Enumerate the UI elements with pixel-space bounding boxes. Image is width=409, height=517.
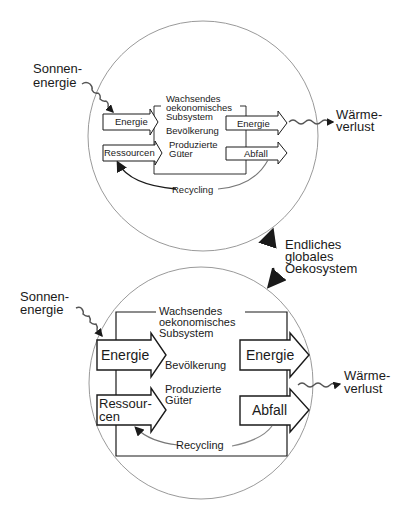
bottom-resources-input-arrow: Ressour- cen: [97, 388, 166, 432]
bottom-population-label: Bevölkerung: [165, 359, 226, 371]
top-heat-wave-icon: [289, 120, 333, 124]
ecosystem-diagram: Sonnen- energie Energie Ressourcen Wachs…: [0, 0, 409, 517]
bottom-recycling-arrow: [136, 428, 178, 445]
bottom-heat-loss-label: Wärme- verlust: [344, 368, 394, 396]
top-heat-loss-label: Wärme- verlust: [336, 107, 386, 134]
top-ecosystem-circle: [88, 21, 318, 251]
svg-text:Ressourcen: Ressourcen: [104, 147, 155, 158]
top-recycling-label: Recycling: [172, 184, 213, 195]
bottom-heat-wave-icon: [298, 383, 340, 387]
svg-text:Abfall: Abfall: [244, 148, 268, 159]
bottom-energy-input-arrow: Energie: [97, 333, 166, 377]
top-produced-goods-label: Produzierte Güter: [169, 139, 220, 159]
top-recycling-arrow: [118, 163, 176, 189]
svg-text:Abfall: Abfall: [252, 402, 287, 418]
top-energy-output-arrow: Energie: [226, 111, 287, 135]
top-resources-input-arrow: Ressourcen: [103, 141, 162, 165]
top-waste-output-arrow: Abfall: [226, 142, 287, 164]
ecosystem-connector: Endliches globales Oekosystem: [270, 232, 357, 285]
bottom-produced-goods-label: Produzierte Güter: [165, 383, 224, 406]
top-subsystem-label: Wachsendes oekonomisches Subsystem: [166, 93, 235, 122]
bottom-recycling-label: Recycling: [176, 439, 224, 451]
bottom-sun-energy-label: Sonnen- energie: [20, 289, 73, 317]
bottom-subsystem-label: Wachsendes oekonomisches Subsystem: [159, 305, 239, 339]
connector-down-arrow-icon: [270, 268, 274, 285]
svg-text:Energie: Energie: [246, 347, 294, 363]
finite-global-ecosystem-label: Endliches globales Oekosystem: [285, 237, 357, 276]
bottom-diagram: Sonnen- energie Energie Ressour- cen Wac…: [20, 267, 394, 499]
bottom-energy-output-arrow: Energie: [240, 333, 309, 377]
bottom-waste-output-arrow: Abfall: [240, 389, 309, 432]
svg-text:Energie: Energie: [115, 116, 148, 127]
top-sun-wave-icon: [82, 83, 113, 113]
top-population-label: Bevölkerung: [166, 125, 219, 136]
top-diagram: Sonnen- energie Energie Ressourcen Wachs…: [33, 21, 386, 251]
svg-text:Energie: Energie: [237, 118, 270, 129]
connector-up-arrow-icon: [271, 232, 275, 247]
top-energy-input-arrow: Energie: [103, 109, 158, 135]
top-sun-energy-label: Sonnen- energie: [33, 61, 86, 90]
bottom-sun-wave-icon: [76, 307, 102, 336]
svg-text:Energie: Energie: [101, 347, 149, 363]
